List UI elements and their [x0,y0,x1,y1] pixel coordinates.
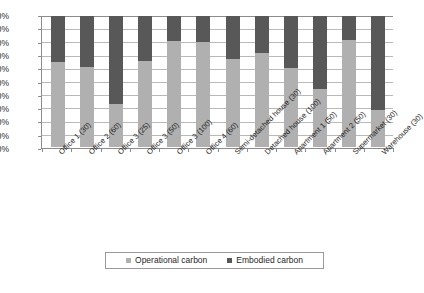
y-axis-tick-label: 30% [0,105,9,114]
y-axis-tick-label: 70% [0,52,9,61]
x-axis-tick-mark [159,148,160,152]
chart-legend: Operational carbon Embodied carbon [105,252,324,269]
legend-item-operational-carbon: Operational carbon [126,256,207,265]
bar-segment-embodied-carbon[interactable] [196,16,210,42]
bar-segment-embodied-carbon[interactable] [51,16,65,62]
bar-segment-embodied-carbon[interactable] [371,16,385,110]
bar-segment-operational-carbon[interactable] [51,62,65,147]
y-axis-tick-mark [38,122,41,123]
y-axis-tick-label: 10% [0,132,9,141]
bar-segment-embodied-carbon[interactable] [226,16,240,59]
y-axis-tick-label: 100% [0,12,9,21]
bars-layer [43,16,393,147]
y-axis-tick-mark [38,136,41,137]
x-axis-tick-mark [71,148,72,152]
y-axis-tick-label: 0% [0,145,9,154]
legend-label-operational-carbon: Operational carbon [135,256,207,265]
bar-segment-embodied-carbon[interactable] [80,16,94,67]
y-axis-tick-mark [38,16,41,17]
bar-slot [43,16,72,147]
stacked-bar[interactable] [51,16,65,147]
y-axis-tick-label: 80% [0,39,9,48]
bar-segment-embodied-carbon[interactable] [342,16,356,40]
bar-segment-embodied-carbon[interactable] [313,16,327,89]
bar-segment-embodied-carbon[interactable] [167,16,181,41]
y-axis-tick-label: 40% [0,92,9,101]
y-axis-tick-label: 20% [0,118,9,127]
bar-segment-embodied-carbon[interactable] [138,16,152,61]
y-axis-tick-mark [38,83,41,84]
y-axis-tick-mark [38,56,41,57]
legend-item-embodied-carbon: Embodied carbon [227,256,303,265]
y-axis-tick-mark [38,109,41,110]
y-axis-tick-mark [38,69,41,70]
operational-swatch-icon [126,258,131,263]
x-axis-tick-mark [42,148,43,152]
bar-segment-embodied-carbon[interactable] [284,16,298,68]
bar-segment-embodied-carbon[interactable] [109,16,123,104]
legend-label-embodied-carbon: Embodied carbon [236,256,303,265]
y-axis-tick-mark [38,96,41,97]
bar-segment-embodied-carbon[interactable] [255,16,269,53]
y-axis-tick-label: 50% [0,79,9,88]
y-axis-tick-mark [38,43,41,44]
y-axis-tick-label: 60% [0,65,9,74]
y-axis-tick-label: 90% [0,25,9,34]
y-axis-tick-mark [38,29,41,30]
y-axis-tick-mark [38,149,41,150]
embodied-swatch-icon [227,258,232,263]
